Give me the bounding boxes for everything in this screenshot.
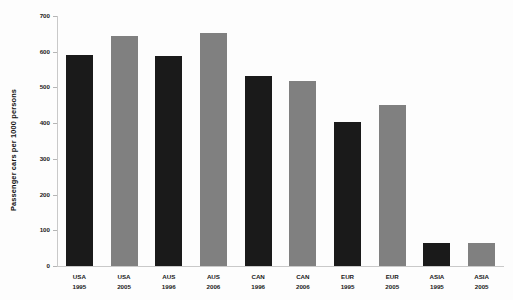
y-axis-tick: 700 — [0, 16, 57, 17]
bar-can-2006 — [289, 81, 316, 266]
bar-usa-2005 — [111, 36, 138, 266]
bar-can-1996 — [245, 76, 272, 266]
x-axis-label-year: 2005 — [456, 282, 508, 292]
y-axis-tick-label: 700 — [40, 11, 50, 20]
y-axis-tick: 500 — [0, 87, 57, 88]
bar-aus-2006 — [200, 33, 227, 266]
bar-aus-1996 — [155, 56, 182, 266]
x-axis-label: ASIA2005 — [456, 272, 508, 291]
y-axis-tick-label: 300 — [40, 154, 50, 163]
y-axis-tick-label: 400 — [40, 118, 50, 127]
y-axis-tick: 300 — [0, 159, 57, 160]
bar-eur-2005 — [379, 105, 406, 266]
y-axis-tick-label: 100 — [40, 225, 50, 234]
bar-chart: Passenger cars per 1000 persons 01002003… — [0, 0, 513, 300]
y-axis-tick: 600 — [0, 52, 57, 53]
y-axis-tick-mark — [53, 266, 57, 267]
plot-area — [57, 16, 504, 266]
y-axis-title: Passenger cars per 1000 persons — [0, 0, 26, 300]
y-axis-tick: 400 — [0, 123, 57, 124]
bar-asia-2005 — [468, 243, 495, 266]
y-axis-tick-label: 200 — [40, 190, 50, 199]
bar-asia-1995 — [423, 243, 450, 266]
bar-usa-1995 — [66, 55, 93, 266]
y-axis-tick: 200 — [0, 195, 57, 196]
y-axis-tick-label: 600 — [40, 47, 50, 56]
y-axis-tick-label: 0 — [47, 261, 50, 270]
bar-eur-1995 — [334, 122, 361, 266]
x-axis-line — [57, 266, 504, 267]
y-axis-tick-label: 500 — [40, 82, 50, 91]
y-axis-tick: 100 — [0, 230, 57, 231]
y-axis-tick: 0 — [0, 266, 57, 267]
x-axis-label-region: ASIA — [456, 272, 508, 282]
